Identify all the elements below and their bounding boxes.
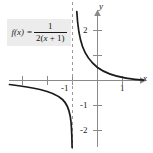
formula-numerator: 1 [46, 22, 55, 32]
formula-equals: = [27, 28, 32, 37]
curve-right-branch [77, 12, 144, 81]
curve-left-branch [10, 85, 73, 148]
denominator-suffix: + 1) [48, 33, 65, 43]
graph-figure: f(x) = 1 2(x + 1) y x -1 1 2 -1 -2 [0, 0, 153, 153]
y-axis-label: y [99, 2, 103, 11]
x-tick-label-pos1: 1 [120, 84, 125, 93]
formula-expression: f(x) = 1 2(x + 1) [11, 22, 66, 43]
x-axis-label: x [143, 74, 147, 83]
y-tick-label-pos2: 2 [83, 26, 88, 35]
x-tick-label-neg1: -1 [61, 84, 69, 93]
y-tick-label-neg2: -2 [80, 126, 88, 135]
formula-callout: f(x) = 1 2(x + 1) [7, 19, 71, 46]
formula-fraction: 1 2(x + 1) [34, 22, 67, 43]
formula-lhs: f(x) [11, 28, 24, 37]
y-tick-label-neg1: -1 [80, 101, 88, 110]
denominator-prefix: 2( [36, 33, 44, 43]
formula-denominator: 2(x + 1) [34, 33, 67, 43]
